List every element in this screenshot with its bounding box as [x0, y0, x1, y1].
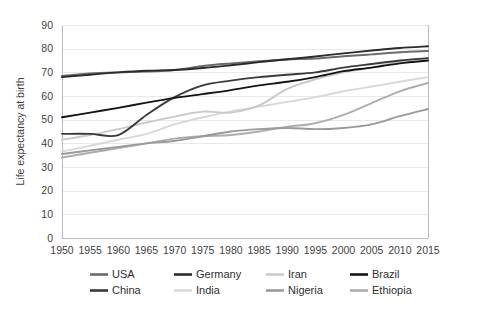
legend-label-germany: Germany	[196, 268, 242, 280]
y-tick-label-50: 50	[41, 113, 53, 125]
chart-container: 0102030405060708090 19501955196019651970…	[0, 0, 487, 324]
x-tick-label-2010: 2010	[388, 244, 412, 256]
y-tick-label-90: 90	[41, 19, 53, 31]
y-tick-label-80: 80	[41, 42, 53, 54]
chart-background	[0, 0, 487, 324]
x-tick-label-1975: 1975	[191, 244, 215, 256]
y-tick-label-0: 0	[47, 232, 53, 244]
y-tick-label-20: 20	[41, 184, 53, 196]
x-tick-label-2015: 2015	[416, 244, 440, 256]
x-tick-label-1990: 1990	[276, 244, 300, 256]
x-tick-label-1970: 1970	[163, 244, 187, 256]
x-tick-label-1980: 1980	[219, 244, 243, 256]
x-tick-label-1955: 1955	[78, 244, 102, 256]
legend-label-usa: USA	[112, 268, 135, 280]
y-tick-label-60: 60	[41, 90, 53, 102]
y-tick-label-40: 40	[41, 137, 53, 149]
x-tick-label-1965: 1965	[135, 244, 159, 256]
legend-label-iran: Iran	[288, 268, 307, 280]
y-tick-label-10: 10	[41, 208, 53, 220]
y-tick-label-30: 30	[41, 161, 53, 173]
legend-label-india: India	[196, 284, 221, 296]
y-axis-title: Life expectancy at birth	[14, 77, 26, 185]
x-tick-label-2005: 2005	[360, 244, 384, 256]
x-tick-label-2000: 2000	[332, 244, 356, 256]
legend-label-nigeria: Nigeria	[288, 284, 324, 296]
x-tick-label-1960: 1960	[107, 244, 131, 256]
legend-label-ethiopia: Ethiopia	[372, 284, 413, 296]
y-tick-label-70: 70	[41, 66, 53, 78]
x-tick-label-1995: 1995	[304, 244, 328, 256]
x-tick-label-1985: 1985	[247, 244, 271, 256]
x-tick-label-1950: 1950	[50, 244, 74, 256]
legend-label-china: China	[112, 284, 142, 296]
line-chart-figure: 0102030405060708090 19501955196019651970…	[0, 0, 487, 324]
legend-label-brazil: Brazil	[372, 268, 400, 280]
